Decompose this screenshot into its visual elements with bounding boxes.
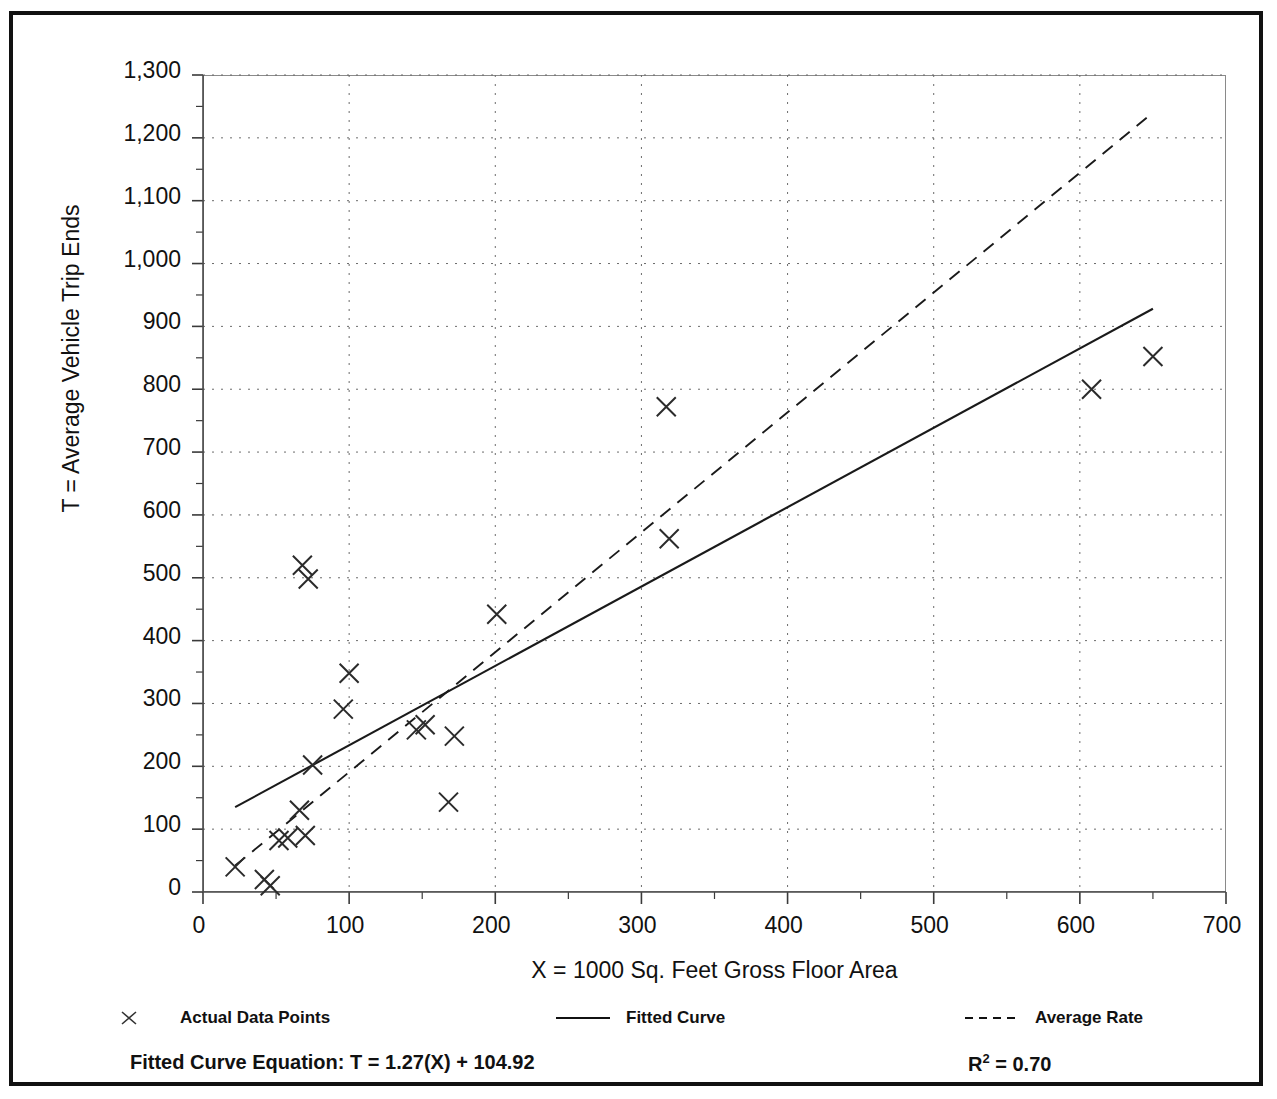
data-point-marker bbox=[226, 857, 245, 876]
data-point-marker bbox=[334, 700, 353, 719]
x-tick-label: 300 bbox=[587, 914, 687, 937]
axis-lines bbox=[203, 75, 1226, 892]
data-point-marker bbox=[290, 801, 309, 820]
average-rate-line bbox=[235, 113, 1153, 866]
r-squared-exponent: 2 bbox=[982, 1051, 989, 1066]
y-tick-label: 1,300 bbox=[9, 59, 181, 82]
y-tick-label: 300 bbox=[9, 687, 181, 710]
fitted-curve-line bbox=[235, 309, 1153, 807]
solid-line-icon bbox=[554, 1009, 612, 1027]
x-tick-label: 500 bbox=[880, 914, 980, 937]
chart-canvas bbox=[203, 75, 1226, 892]
axis-ticks bbox=[192, 75, 1226, 904]
y-tick-label: 800 bbox=[9, 373, 181, 396]
legend-item-actual-data-points: Actual Data Points bbox=[108, 1003, 330, 1033]
data-point-marker bbox=[445, 727, 464, 746]
r-squared-number: = 0.70 bbox=[990, 1053, 1052, 1075]
y-tick-label: 0 bbox=[9, 876, 181, 899]
y-tick-label: 700 bbox=[9, 436, 181, 459]
data-point-marker bbox=[303, 756, 322, 775]
x-tick-label: 600 bbox=[1026, 914, 1126, 937]
chart-page: T = Average Vehicle Trip Ends X = 1000 S… bbox=[0, 0, 1277, 1099]
legend-label: Actual Data Points bbox=[180, 1008, 330, 1028]
y-tick-label: 1,100 bbox=[9, 185, 181, 208]
y-tick-label: 200 bbox=[9, 750, 181, 773]
legend-item-fitted-curve: Fitted Curve bbox=[554, 1003, 725, 1033]
data-point-marker bbox=[296, 826, 315, 845]
data-point-marker bbox=[1143, 347, 1162, 366]
fitted-curve-equation: Fitted Curve Equation: T = 1.27(X) + 104… bbox=[130, 1051, 535, 1074]
plot-area bbox=[203, 75, 1226, 892]
x-tick-label: 700 bbox=[1172, 914, 1272, 937]
figure-frame: T = Average Vehicle Trip Ends X = 1000 S… bbox=[9, 11, 1263, 1086]
data-point-marker bbox=[439, 793, 458, 812]
data-point-marker bbox=[487, 605, 506, 624]
dashed-line-icon bbox=[963, 1009, 1021, 1027]
y-tick-label: 900 bbox=[9, 310, 181, 333]
y-tick-label: 1,000 bbox=[9, 248, 181, 271]
y-tick-label: 500 bbox=[9, 562, 181, 585]
data-points bbox=[226, 347, 1163, 895]
y-tick-label: 400 bbox=[9, 625, 181, 648]
x-tick-label: 100 bbox=[295, 914, 395, 937]
x-tick-label: 400 bbox=[734, 914, 834, 937]
data-point-marker bbox=[657, 397, 676, 416]
y-tick-label: 1,200 bbox=[9, 122, 181, 145]
x-marker-icon bbox=[108, 1009, 166, 1027]
r-squared-value: R2 = 0.70 bbox=[968, 1051, 1051, 1076]
r-squared-prefix: R bbox=[968, 1053, 982, 1075]
grid-lines bbox=[203, 75, 1226, 892]
x-tick-label: 200 bbox=[441, 914, 541, 937]
truncated-title bbox=[248, 0, 608, 9]
trend-lines bbox=[235, 113, 1153, 866]
legend-label: Average Rate bbox=[1035, 1008, 1143, 1028]
legend-item-average-rate: Average Rate bbox=[963, 1003, 1143, 1033]
y-tick-label: 600 bbox=[9, 499, 181, 522]
y-tick-label: 100 bbox=[9, 813, 181, 836]
legend: Actual Data Points Fitted Curve Average … bbox=[108, 1003, 1228, 1033]
data-point-marker bbox=[416, 715, 435, 734]
footer: Fitted Curve Equation: T = 1.27(X) + 104… bbox=[108, 1051, 1228, 1085]
legend-label: Fitted Curve bbox=[626, 1008, 725, 1028]
y-axis-title: T = Average Vehicle Trip Ends bbox=[58, 179, 85, 539]
x-tick-label: 0 bbox=[149, 914, 249, 937]
data-point-marker bbox=[660, 529, 679, 548]
data-point-marker bbox=[1082, 380, 1101, 399]
x-axis-title: X = 1000 Sq. Feet Gross Floor Area bbox=[203, 957, 1226, 984]
